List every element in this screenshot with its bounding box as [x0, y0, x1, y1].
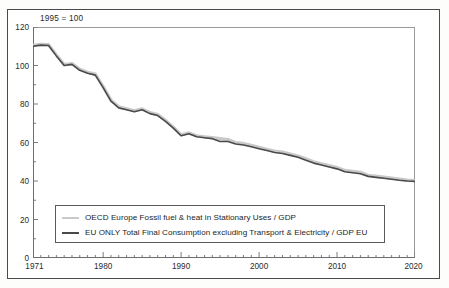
series-line-1: [33, 45, 415, 181]
legend-item-oecd-europe: OECD Europe Fossil fuel & heat in Statio…: [62, 210, 378, 225]
legend-swatch-line-icon: [62, 232, 79, 234]
x-axis-labels: 197119801990200020102020: [33, 262, 415, 278]
y-tick-label: 20: [5, 215, 29, 224]
y-tick-label: 40: [5, 177, 29, 186]
chart-legend: OECD Europe Fossil fuel & heat in Statio…: [55, 205, 385, 243]
x-tick-label: 2000: [250, 262, 268, 271]
x-tick-label: 2010: [328, 262, 346, 271]
chart-page: 1995 = 100 020406080100120 1971198019902…: [0, 0, 449, 288]
y-axis-labels: 020406080100120: [3, 27, 29, 258]
legend-item-eu-only: EU ONLY Total Final Consumption excludin…: [62, 225, 378, 240]
x-tick-label: 1990: [172, 262, 190, 271]
legend-label-eu-only: EU ONLY Total Final Consumption excludin…: [85, 228, 367, 237]
x-tick-label: 2020: [404, 262, 422, 271]
legend-label-oecd-europe: OECD Europe Fossil fuel & heat in Statio…: [85, 213, 296, 222]
x-tick-label: 1971: [25, 262, 43, 271]
y-tick-label: 120: [5, 23, 29, 32]
y-tick-label: 100: [5, 61, 29, 70]
series-line-0: [33, 44, 415, 180]
x-tick-label: 1980: [94, 262, 112, 271]
index-base-annotation: 1995 = 100: [40, 14, 83, 23]
y-tick-label: 80: [5, 100, 29, 109]
legend-swatch-line-icon: [62, 217, 79, 219]
y-tick-label: 60: [5, 138, 29, 147]
